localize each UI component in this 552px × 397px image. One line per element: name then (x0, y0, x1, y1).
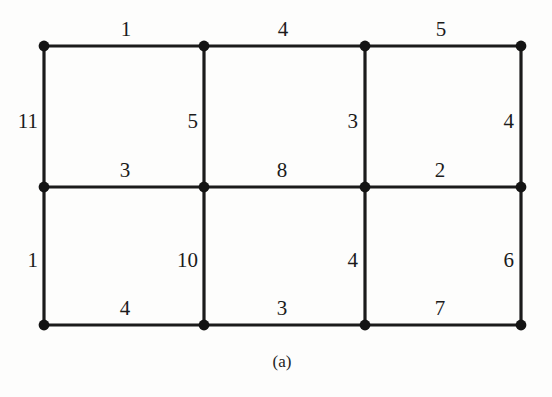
graph-node (516, 182, 527, 193)
edge-weight-label: 6 (504, 250, 515, 271)
graph-node (199, 41, 210, 52)
edge-weight-label: 4 (278, 19, 289, 40)
graph-canvas (0, 0, 552, 397)
edge-weight-label: 7 (435, 298, 446, 319)
graph-node (199, 182, 210, 193)
edge-weight-label: 4 (348, 250, 359, 271)
edge-weight-label: 5 (188, 111, 199, 132)
edge-weight-label: 2 (435, 160, 446, 181)
edge-weight-label: 11 (18, 111, 38, 132)
graph-node (39, 41, 50, 52)
graph-node (360, 41, 371, 52)
graph-node (360, 182, 371, 193)
edge-weight-label: 1 (28, 250, 39, 271)
graph-node (516, 41, 527, 52)
graph-node (516, 320, 527, 331)
edge-weight-label: 3 (277, 298, 288, 319)
edge-weight-label: 3 (120, 160, 131, 181)
edge-weight-label: 1 (121, 19, 132, 40)
edge-weight-label: 4 (504, 111, 515, 132)
weighted-grid-graph-figure: 1453824371153411046 (a) (0, 0, 552, 397)
edge-weight-label: 3 (348, 111, 359, 132)
edge-weight-label: 8 (277, 160, 288, 181)
edge-line-group (44, 46, 521, 325)
edge-weight-label: 4 (120, 298, 131, 319)
figure-caption: (a) (273, 353, 292, 370)
graph-node (39, 182, 50, 193)
edge-weight-label: 5 (436, 19, 447, 40)
graph-node (39, 320, 50, 331)
graph-node (360, 320, 371, 331)
graph-node (199, 320, 210, 331)
edge-weight-label: 10 (177, 250, 198, 271)
